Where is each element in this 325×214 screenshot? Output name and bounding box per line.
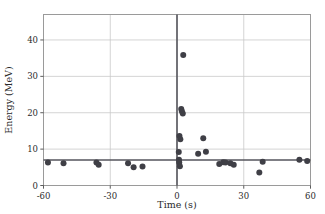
x-axis-label: Time (s)	[157, 199, 196, 210]
figure-background	[0, 0, 325, 214]
y-tick-label: 40	[27, 35, 38, 45]
data-point	[61, 160, 67, 166]
data-point	[180, 52, 186, 58]
plot-canvas: -60-3003060 010203040 Time (s) Energy (M…	[0, 0, 325, 214]
data-point	[260, 159, 266, 165]
y-tick-label: 10	[27, 144, 38, 154]
x-tick-label: 60	[305, 191, 316, 201]
data-point	[125, 160, 131, 166]
data-point	[195, 151, 201, 157]
data-point	[180, 110, 186, 116]
data-point	[96, 162, 102, 168]
x-tick-label: 30	[238, 191, 249, 201]
y-axis-label: Energy (MeV)	[3, 66, 14, 133]
y-tick-label: 0	[33, 181, 38, 191]
data-point	[256, 169, 262, 175]
y-tick-label: 20	[27, 108, 38, 118]
x-tick-label: -60	[37, 191, 51, 201]
data-point	[231, 162, 237, 168]
data-point	[296, 157, 302, 163]
x-tick-label: -30	[103, 191, 117, 201]
data-point	[203, 149, 209, 155]
data-point	[176, 149, 182, 155]
scatter-plot-figure: -60-3003060 010203040 Time (s) Energy (M…	[0, 0, 325, 214]
data-point	[131, 164, 137, 170]
data-point	[200, 135, 206, 141]
data-point	[45, 160, 51, 166]
data-point	[177, 136, 183, 142]
data-point	[177, 163, 183, 169]
y-tick-label: 30	[27, 71, 38, 81]
data-point	[140, 164, 146, 170]
data-point	[304, 158, 310, 164]
